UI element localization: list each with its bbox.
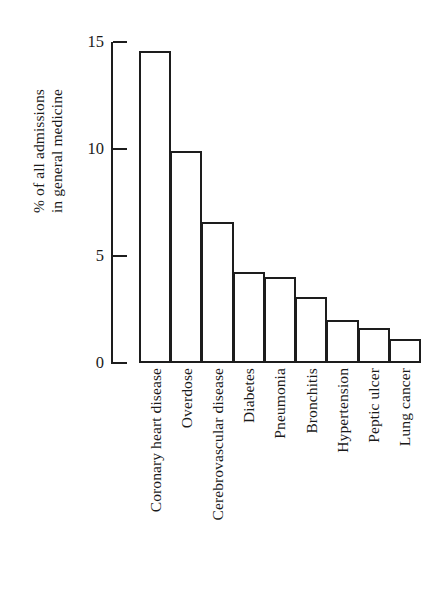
bar[interactable] bbox=[326, 320, 358, 363]
bar[interactable] bbox=[389, 339, 421, 363]
x-axis-label-text: Hypertension bbox=[335, 368, 351, 453]
x-axis-label-text: Cerebrovascular disease bbox=[210, 368, 226, 521]
x-axis-label-text: Diabetes bbox=[241, 368, 257, 423]
bar[interactable] bbox=[201, 222, 233, 363]
x-axis-label-text: Bronchitis bbox=[304, 368, 320, 434]
y-tick-label-15: 15 bbox=[88, 34, 105, 51]
x-axis-category-labels: Coronary heart diseaseOverdoseCerebrovas… bbox=[140, 368, 421, 611]
y-axis-spine bbox=[111, 42, 113, 364]
x-axis-label-text: Lung cancer bbox=[398, 368, 414, 446]
x-axis-label: Pneumonia bbox=[265, 368, 296, 608]
x-axis-label-text: Overdose bbox=[179, 368, 195, 428]
x-axis-label-text: Pneumonia bbox=[273, 368, 289, 439]
bar[interactable] bbox=[295, 297, 327, 363]
y-tick-mark-5 bbox=[113, 255, 127, 257]
y-tick-mark-15 bbox=[113, 41, 127, 43]
bar[interactable] bbox=[139, 51, 171, 363]
x-axis-label: Bronchitis bbox=[296, 368, 327, 608]
x-axis-label-text: Peptic ulcer bbox=[366, 368, 382, 443]
bar-chart-figure: % of all admissions in general medicine … bbox=[0, 0, 440, 611]
bar[interactable] bbox=[233, 272, 265, 363]
bar[interactable] bbox=[264, 277, 296, 363]
x-axis-label-text: Coronary heart disease bbox=[148, 368, 164, 512]
bar-series bbox=[140, 0, 421, 380]
y-tick-label-0: 0 bbox=[96, 355, 104, 372]
x-axis-label: Overdose bbox=[171, 368, 202, 608]
y-tick-mark-10 bbox=[113, 148, 127, 150]
x-axis-label: Diabetes bbox=[234, 368, 265, 608]
y-tick-label-5: 5 bbox=[96, 248, 104, 265]
y-tick-mark-0 bbox=[113, 362, 127, 364]
x-axis-label: Hypertension bbox=[327, 368, 358, 608]
x-axis-label: Peptic ulcer bbox=[359, 368, 390, 608]
x-axis-label: Lung cancer bbox=[390, 368, 421, 608]
bar[interactable] bbox=[358, 328, 390, 363]
y-tick-label-10: 10 bbox=[88, 141, 105, 158]
x-axis-label: Cerebrovascular disease bbox=[202, 368, 233, 608]
x-axis-label: Coronary heart disease bbox=[140, 368, 171, 608]
bar[interactable] bbox=[170, 151, 202, 363]
plot-area: 051015 bbox=[0, 0, 440, 380]
